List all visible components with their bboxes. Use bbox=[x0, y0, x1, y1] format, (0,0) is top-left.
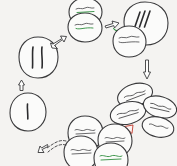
cell-cycle-sketch: .cell{fill:#fbfbfa;stroke:#3a3a3c;stroke… bbox=[0, 0, 177, 166]
node-interphase-single bbox=[10, 93, 46, 131]
chromosome-mark bbox=[42, 47, 43, 68]
node-prophase-double bbox=[19, 37, 58, 78]
diagram-canvas: .cell{fill:#fbfbfa;stroke:#3a3a3c;stroke… bbox=[0, 0, 177, 166]
node-two-cell-stack bbox=[68, 0, 102, 42]
chromosome-mark bbox=[33, 47, 34, 68]
